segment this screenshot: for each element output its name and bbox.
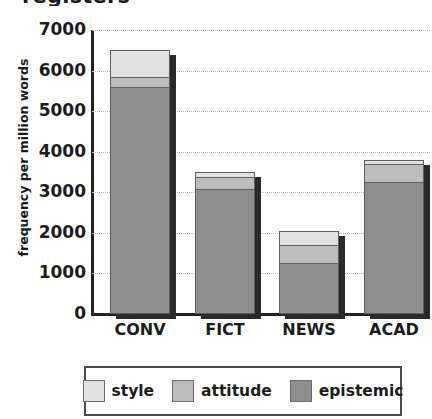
legend-swatch-style: [83, 380, 105, 402]
chart-title: registers: [22, 0, 130, 6]
bar-stack[interactable]: [195, 172, 255, 314]
y-axis-tick-label: 6000: [2, 60, 86, 80]
bar-segment-style[interactable]: [195, 172, 255, 177]
bar-segment-attitude[interactable]: [364, 164, 424, 182]
bar-segment-attitude[interactable]: [195, 177, 255, 189]
bar-segment-epistemic[interactable]: [364, 182, 424, 314]
bar-stack[interactable]: [364, 160, 424, 314]
stacked-bar-chart: registers frequency per million words 70…: [0, 0, 432, 419]
bar-segment-style[interactable]: [364, 160, 424, 164]
chart-legend: styleattitudeepistemic: [84, 366, 402, 416]
bar-segment-attitude[interactable]: [279, 245, 339, 263]
legend-label: attitude: [201, 382, 272, 400]
legend-label: style: [112, 382, 155, 400]
y-axis-tick-label: 3000: [2, 181, 86, 201]
bar-group[interactable]: [110, 30, 170, 314]
bar-stack[interactable]: [110, 50, 170, 314]
bar-segment-attitude[interactable]: [110, 77, 170, 87]
y-axis-tick-label: 0: [2, 303, 86, 323]
bar-group[interactable]: [364, 30, 424, 314]
bar-group[interactable]: [195, 30, 255, 314]
y-axis-tick-labels: 70006000500040003000200010000: [0, 30, 86, 314]
legend-item-attitude[interactable]: attitude: [172, 380, 272, 402]
y-axis-tick-label: 5000: [2, 100, 86, 120]
y-axis-tick-label: 7000: [2, 19, 86, 39]
legend-swatch-epistemic: [290, 380, 312, 402]
legend-item-style[interactable]: style: [83, 380, 155, 402]
y-axis-tick-label: 4000: [2, 141, 86, 161]
plot-area: [92, 30, 430, 314]
y-axis-tick-label: 2000: [2, 222, 86, 242]
bar-stack[interactable]: [279, 231, 339, 314]
x-axis-tick-label: FICT: [183, 320, 267, 339]
bar-group[interactable]: [279, 30, 339, 314]
legend-swatch-attitude: [172, 380, 194, 402]
x-axis-tick-label: ACAD: [352, 320, 432, 339]
bar-segment-epistemic[interactable]: [279, 263, 339, 314]
x-axis-tick-label: NEWS: [267, 320, 351, 339]
legend-item-epistemic[interactable]: epistemic: [290, 380, 404, 402]
bar-segment-style[interactable]: [279, 231, 339, 245]
y-axis-tick-label: 1000: [2, 262, 86, 282]
legend-label: epistemic: [319, 382, 404, 400]
bar-segment-style[interactable]: [110, 50, 170, 76]
bar-segment-epistemic[interactable]: [110, 87, 170, 314]
bar-segment-epistemic[interactable]: [195, 189, 255, 314]
x-axis-tick-label: CONV: [98, 320, 182, 339]
